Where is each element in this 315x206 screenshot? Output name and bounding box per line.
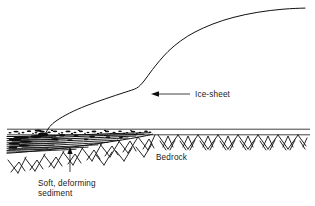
ice-sheet-profile-group — [46, 8, 306, 133]
ice-sheet-label: Ice-sheet — [195, 90, 231, 99]
sediment-label-line2: sediment — [38, 189, 73, 198]
ice-sheet-arrow — [151, 91, 190, 96]
bedrock-hatch-pattern — [158, 135, 307, 150]
ice-sheet-arrow-head — [151, 91, 159, 96]
bedrock-label: Bedrock — [156, 153, 188, 162]
bedrock-hatch-under-sediment — [8, 135, 155, 173]
diagram-figure: Ice-sheet Bedrock Soft, deforming sedime… — [0, 0, 315, 206]
ice-sheet-surface-curve — [46, 8, 306, 133]
sediment-label-line1: Soft, deforming — [38, 179, 96, 188]
geology-cross-section-svg: Ice-sheet Bedrock Soft, deforming sedime… — [0, 0, 315, 206]
